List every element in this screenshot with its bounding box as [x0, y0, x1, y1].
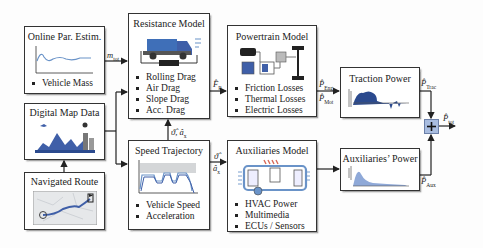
block-title: Auxiliaries’ Power: [341, 153, 419, 164]
signal-acc-label: âx: [213, 163, 220, 175]
block-title: Navigated Route: [25, 176, 104, 187]
bullet-item: Acceleration: [135, 211, 200, 222]
signal-speed-acc-up-label: ϑ̂, âx: [171, 127, 186, 139]
bullet-item: Multimedia: [234, 210, 305, 221]
block-title: Resistance Model: [129, 18, 209, 29]
block-title: Auxiliaries Model: [228, 145, 316, 156]
auxiliaries-model-block: Auxiliaries Model HVAC Power Multimedia …: [227, 140, 317, 232]
bullet-item: Rolling Drag: [135, 72, 196, 83]
landscape-map-icon: [33, 121, 97, 156]
signal-force-label: F̂R: [213, 79, 222, 91]
bullet-item: Vehicle Speed: [135, 200, 200, 211]
bullet-item: Thermal Losses: [234, 94, 305, 105]
truck-icon: [137, 33, 203, 69]
signal-p-mot-label: P̂Mot: [319, 93, 333, 105]
traction-power-block: Traction Power: [340, 67, 420, 118]
signal-p-trac-label: P̂Trac: [421, 78, 436, 90]
route-map-icon: [33, 191, 97, 225]
signal-speed-label: ϑ̂: [214, 151, 218, 161]
auxiliaries-power-block: Auxiliaries’ Power: [340, 148, 420, 191]
signal-mass-label: mtot: [107, 50, 119, 62]
block-title: Powertrain Model: [228, 31, 316, 42]
online-estimation-block: Online Par. Estim. Vehicle Mass: [24, 26, 105, 94]
bullet-list: HVAC Power Multimedia ECUs / Sensors: [234, 199, 305, 232]
bullet-item: ECUs / Sensors: [234, 221, 305, 232]
bullet-list: Rolling Drag Air Drag Slope Drag Acc. Dr…: [135, 72, 196, 116]
bullet-item: Slope Drag: [135, 94, 196, 105]
sum-block: [424, 119, 439, 134]
powertrain-icon: [238, 46, 310, 80]
bullet-item: Friction Losses: [234, 83, 305, 94]
auxiliaries-power-plot-icon: [347, 166, 413, 190]
block-title: Digital Map Data: [25, 107, 104, 118]
bullet-item: Vehicle Mass: [31, 78, 93, 89]
mass-estimate-plot-icon: [33, 44, 95, 76]
speed-profile-plot-icon: [136, 159, 202, 195]
bullet-item: Electric Losses: [234, 105, 305, 116]
signal-p-tot-label: P̂tot: [443, 113, 454, 125]
hvac-system-icon: [236, 158, 312, 196]
bullet-item: HVAC Power: [234, 199, 305, 210]
powertrain-model-block: Powertrain Model Friction Losses Thermal…: [227, 25, 317, 117]
block-title: Online Par. Estim.: [25, 31, 104, 42]
resistance-model-block: Resistance Model Rolling Drag Air Drag S…: [128, 13, 210, 119]
digital-map-block: Digital Map Data: [24, 103, 105, 160]
signal-p-aux-label: P̂Aux: [421, 176, 436, 188]
navigated-route-block: Navigated Route: [24, 172, 105, 230]
block-title: Traction Power: [341, 73, 419, 84]
bullet-list: Vehicle Mass: [31, 78, 93, 89]
bullet-item: Acc. Drag: [135, 105, 196, 116]
plus-icon: [425, 120, 438, 133]
block-title: Speed Trajectory: [129, 145, 209, 156]
speed-trajectory-block: Speed Trajectory Vehicle Speed Accelerat…: [128, 140, 210, 230]
bullet-list: Vehicle Speed Acceleration: [135, 200, 200, 222]
signal-p-eng-label: P̂Eng: [319, 79, 333, 91]
traction-power-plot-icon: [347, 87, 413, 115]
bullet-item: Air Drag: [135, 83, 196, 94]
bullet-list: Friction Losses Thermal Losses Electric …: [234, 83, 305, 116]
